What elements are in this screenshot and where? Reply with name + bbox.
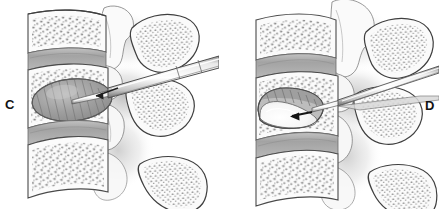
panel-label-d: D bbox=[425, 99, 434, 112]
spinous-process-inferior-d bbox=[368, 165, 437, 209]
vertebral-body-inferior-d bbox=[256, 151, 338, 206]
spinous-process-inferior-c bbox=[138, 157, 207, 209]
panel-d: D bbox=[220, 0, 439, 209]
figure-root: C bbox=[0, 0, 439, 209]
panel-label-c: C bbox=[5, 98, 14, 111]
panel-c-illustration bbox=[0, 0, 219, 209]
panel-d-illustration bbox=[220, 0, 439, 209]
vertebral-body-inferior-c bbox=[28, 137, 108, 198]
vertebral-body-superior-d bbox=[256, 14, 336, 60]
vertebral-body-treated-d bbox=[256, 72, 340, 140]
panel-c: C bbox=[0, 0, 219, 209]
spinous-process-superior-d bbox=[364, 19, 433, 79]
vertebral-body-superior-c bbox=[28, 10, 106, 53]
